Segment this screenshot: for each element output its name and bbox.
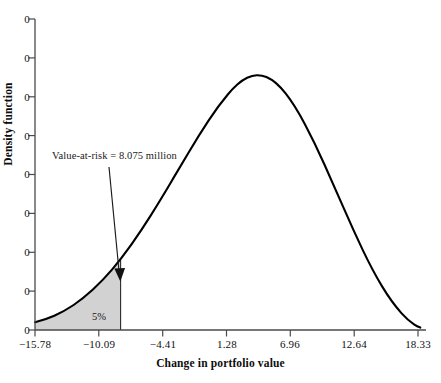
x-tick-label: −15.78 bbox=[19, 338, 51, 350]
x-tick-label: −4.41 bbox=[150, 338, 176, 350]
y-tick-label: 0 bbox=[24, 168, 30, 180]
plot-canvas bbox=[0, 0, 441, 383]
x-axis-title: Change in portfolio value bbox=[0, 357, 441, 369]
y-tick-label: 0 bbox=[24, 13, 30, 25]
value-at-risk-annotation: Value-at-risk = 8.075 million bbox=[52, 150, 177, 161]
x-axis-ticks bbox=[35, 330, 418, 337]
x-tick-label: 1.28 bbox=[217, 338, 237, 350]
y-tick-label: 0 bbox=[24, 130, 30, 142]
y-tick-label: 0 bbox=[24, 324, 30, 336]
y-tick-label: 0 bbox=[24, 207, 30, 219]
y-axis-title: Density function bbox=[2, 59, 14, 189]
tail-probability-label: 5% bbox=[92, 311, 106, 322]
y-tick-label: 0 bbox=[24, 91, 30, 103]
density-function-chart: −15.78 −10.09 −4.41 1.28 6.96 12.64 18.3… bbox=[0, 0, 441, 383]
y-tick-label: 0 bbox=[24, 246, 30, 258]
x-tick-label: −10.09 bbox=[83, 338, 115, 350]
y-tick-label: 0 bbox=[24, 285, 30, 297]
x-tick-label: 18.33 bbox=[405, 338, 431, 350]
y-tick-label: 0 bbox=[24, 52, 30, 64]
density-curve bbox=[35, 75, 420, 327]
x-tick-label: 12.64 bbox=[341, 338, 367, 350]
x-tick-label: 6.96 bbox=[280, 338, 300, 350]
